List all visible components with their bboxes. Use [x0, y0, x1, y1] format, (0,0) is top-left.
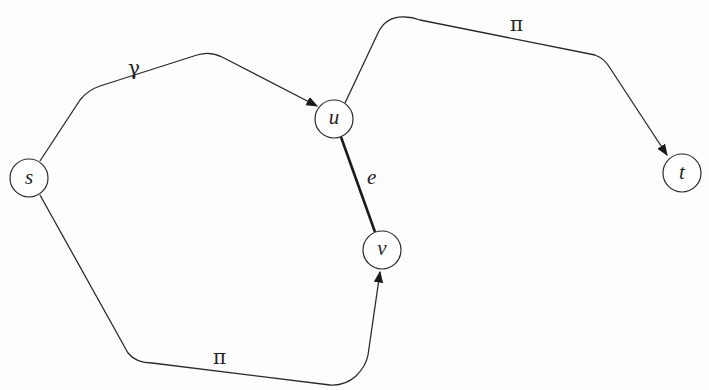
path-diagram: s u v t γ π e π [0, 0, 709, 390]
edge-gamma [40, 53, 317, 161]
edge-e-label: e [367, 167, 376, 188]
edge-pi-upper-label: π [510, 14, 523, 34]
diagram-edges [0, 0, 709, 390]
edge-pi-upper [345, 17, 667, 155]
node-t-label: t [662, 153, 702, 193]
edge-pi-lower-label: π [213, 347, 226, 367]
node-s-label: s [9, 158, 49, 198]
edge-gamma-label: γ [128, 58, 140, 78]
edge-pi-lower [40, 195, 380, 385]
node-v-label: v [362, 229, 402, 269]
node-u-label: u [314, 98, 354, 138]
